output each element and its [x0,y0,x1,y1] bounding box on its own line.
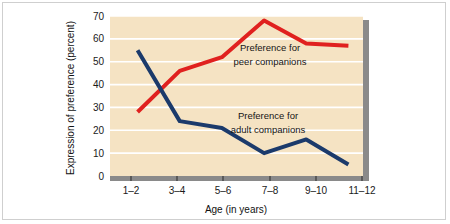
x-axis-tick-labels: 1–2 3–4 5–6 7–8 9–10 11–12 [123,185,376,196]
adult-annotation-line2: adult companions [231,124,306,135]
x-axis-title: Age (in years) [205,204,267,215]
x-tick-3-4: 3–4 [169,185,186,196]
y-axis-tick-labels: 70 60 50 40 30 20 10 0 [93,11,105,182]
adult-annotation-line1: Preference for [238,110,298,121]
y-tick-40: 40 [93,79,105,90]
plot-right-shadow [363,20,369,180]
y-tick-60: 60 [93,33,105,44]
y-tick-70: 70 [93,11,105,22]
x-tick-5-6: 5–6 [215,185,232,196]
y-tick-0: 0 [98,171,104,182]
plot-bottom-axis-shadow [110,176,369,181]
y-tick-10: 10 [93,148,105,159]
y-tick-50: 50 [93,56,105,67]
y-tick-30: 30 [93,102,105,113]
chart-svg: 70 60 50 40 30 20 10 0 Expression of pre… [0,0,450,224]
x-tick-1-2: 1–2 [123,185,140,196]
x-tick-7-8: 7–8 [262,185,279,196]
peer-annotation-line1: Preference for [240,42,300,53]
y-tick-20: 20 [93,125,105,136]
figure-container: 70 60 50 40 30 20 10 0 Expression of pre… [0,0,450,224]
x-tick-11-12: 11–12 [348,185,376,196]
line-chart: 70 60 50 40 30 20 10 0 Expression of pre… [0,0,450,224]
y-axis-title: Expression of preference (percent) [65,21,76,175]
peer-annotation-line2: peer companions [234,56,307,67]
x-tick-9-10: 9–10 [305,185,328,196]
